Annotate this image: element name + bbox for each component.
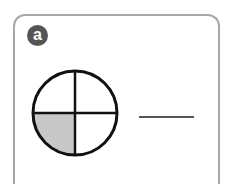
- fraction-circle-figure: [0, 0, 226, 184]
